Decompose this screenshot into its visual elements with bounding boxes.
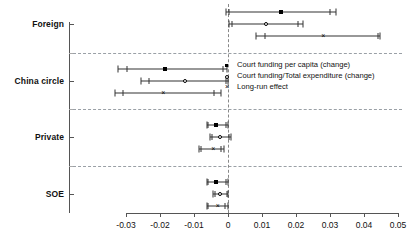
interval-china-circle-s3-cap-low	[114, 89, 115, 96]
y-axis-line	[69, 22, 70, 213]
legend-marker-open-circle-icon	[225, 75, 229, 79]
interval-china-circle-s3-inner-cap-low	[122, 90, 123, 96]
legend-label-1: Court funding per capita (change)	[237, 59, 350, 70]
interval-foreign-s2-point	[264, 22, 268, 26]
interval-foreign-s3-cap-low	[256, 33, 257, 40]
interval-soe-s3-point	[215, 203, 221, 209]
interval-foreign-s2-cap-low	[228, 21, 229, 28]
y-axis-label-soe: SOE	[0, 189, 64, 199]
interval-private-s2-cap-high	[231, 134, 232, 141]
interval-foreign-s3-line	[256, 36, 380, 37]
interval-soe-s3-cap-high	[227, 202, 228, 209]
x-axis-tick-3	[228, 213, 229, 217]
x-axis-label-0: -0.03	[116, 220, 135, 230]
x-axis-label-8: 0.05	[390, 220, 407, 230]
interval-foreign-s3-inner-cap-low	[265, 33, 266, 39]
interval-private-s2-inner-cap-high	[229, 134, 230, 140]
interval-soe-s1-point	[214, 180, 218, 184]
interval-soe-s3-inner-cap-high	[225, 203, 226, 209]
y-axis-tick-2	[69, 81, 74, 82]
interval-soe-s1-inner-cap-high	[226, 179, 227, 185]
interval-soe-s1-cap-high	[228, 178, 229, 185]
interval-private-s3-inner-cap-low	[200, 146, 201, 152]
x-axis-tick-5	[296, 213, 297, 217]
interval-china-circle-s2-inner-cap-low	[149, 78, 150, 84]
x-axis-tick-7	[364, 213, 365, 217]
y-axis-tick-3	[69, 137, 74, 138]
interval-private-s3-cap-low	[198, 146, 199, 153]
interval-private-s1-point	[214, 123, 218, 127]
legend-label-3: Long-run effect	[237, 81, 288, 92]
x-axis-label-2: -0.01	[184, 220, 203, 230]
interval-private-s3-cap-high	[223, 146, 224, 153]
interval-china-circle-s2-cap-low	[140, 77, 141, 84]
interval-foreign-s1-inner-cap-high	[330, 9, 331, 15]
interval-soe-s2-cap-high	[228, 190, 229, 197]
interval-private-s1-cap-high	[228, 122, 229, 129]
interval-foreign-s3-point	[320, 33, 326, 39]
interval-soe-s2-inner-cap-high	[226, 191, 227, 197]
legend-marker-cross-icon: ×	[225, 84, 229, 89]
interval-foreign-s1-cap-high	[335, 9, 336, 16]
y-axis-label-foreign: Foreign	[0, 19, 64, 29]
interval-foreign-s2-inner-cap-high	[297, 21, 298, 27]
plot-area: ForeignChina circlePrivateSOE-0.03-0.02-…	[0, 0, 409, 239]
legend-label-2: Court funding/Total expenditure (change)	[237, 70, 375, 81]
y-axis-tick-4	[69, 194, 74, 195]
group-separator-1	[73, 53, 402, 54]
interval-soe-s3-inner-cap-low	[208, 203, 209, 209]
interval-foreign-s2-inner-cap-low	[232, 21, 233, 27]
interval-foreign-s1-point	[279, 10, 283, 14]
interval-private-s2-cap-low	[209, 134, 210, 141]
interval-private-s2-inner-cap-low	[212, 134, 213, 140]
x-axis-tick-0	[126, 213, 127, 217]
interval-china-circle-s3-inner-cap-high	[214, 90, 215, 96]
interval-china-circle-s3-cap-high	[220, 89, 221, 96]
interval-soe-s2-inner-cap-low	[215, 191, 216, 197]
x-axis-tick-2	[194, 213, 195, 217]
x-axis-tick-6	[330, 213, 331, 217]
interval-private-s3-inner-cap-high	[221, 146, 222, 152]
y-axis-label-private: Private	[0, 132, 64, 142]
interval-foreign-s1-cap-low	[226, 9, 227, 16]
interval-china-circle-s1-point	[163, 67, 167, 71]
x-axis-tick-1	[160, 213, 161, 217]
x-axis-tick-8	[398, 213, 399, 217]
x-axis-label-1: -0.02	[150, 220, 169, 230]
interval-private-s3-point	[210, 146, 216, 152]
interval-foreign-s1-inner-cap-low	[229, 9, 230, 15]
interval-private-s1-inner-cap-high	[226, 122, 227, 128]
x-axis-label-3: 0	[226, 220, 231, 230]
interval-china-circle-s1-line	[118, 68, 227, 69]
group-separator-3	[73, 166, 402, 167]
interval-private-s1-inner-cap-low	[208, 122, 209, 128]
group-separator-2	[73, 109, 402, 110]
interval-china-circle-s2-point	[183, 79, 187, 83]
interval-private-s2-point	[218, 135, 222, 139]
interval-china-circle-s3-line	[115, 92, 221, 93]
legend-marker-filled-circle-icon	[225, 64, 228, 67]
x-axis-label-7: 0.04	[356, 220, 373, 230]
interval-soe-s2-point	[218, 192, 222, 196]
interval-foreign-s3-cap-high	[380, 33, 381, 40]
y-axis-label-china-circle: China circle	[0, 76, 64, 86]
x-axis-label-6: 0.03	[322, 220, 339, 230]
x-axis-tick-4	[262, 213, 263, 217]
interval-china-circle-s3-point	[160, 90, 166, 96]
x-axis-label-5: 0.02	[288, 220, 305, 230]
interval-china-circle-s1-inner-cap-low	[127, 66, 128, 72]
interval-soe-s1-inner-cap-low	[208, 179, 209, 185]
y-axis-tick-1	[69, 24, 74, 25]
x-axis-label-4: 0.01	[254, 220, 271, 230]
interval-foreign-s3-inner-cap-high	[377, 33, 378, 39]
interval-china-circle-s1-inner-cap-high	[222, 66, 223, 72]
forest-plot: ForeignChina circlePrivateSOE-0.03-0.02-…	[0, 0, 409, 239]
interval-foreign-s2-cap-high	[303, 21, 304, 28]
interval-china-circle-s1-cap-low	[117, 65, 118, 72]
